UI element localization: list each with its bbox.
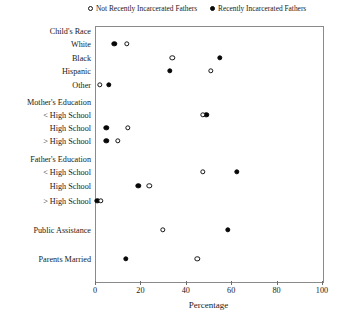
filled-circle-marker-icon <box>210 6 215 11</box>
x-axis-tick-label: 0 <box>93 286 97 296</box>
legend-entry-not-recently-incarcerated: Not Recently Incarcerated Fathers <box>88 4 197 13</box>
x-axis-tick-label: 80 <box>273 286 281 296</box>
x-axis-tick <box>140 281 141 285</box>
x-axis-tick-label: 20 <box>136 286 144 296</box>
chart-figure: Not Recently Incarcerated Fathers Recent… <box>0 0 345 326</box>
y-axis-tick-label: > High School <box>43 197 91 206</box>
data-point-open <box>194 256 199 261</box>
data-point-filled <box>234 169 239 174</box>
data-point-open <box>160 227 165 232</box>
x-axis-tick-label: 60 <box>227 286 235 296</box>
data-point-filled <box>104 125 109 130</box>
y-axis-group-label: Father's Education <box>30 154 91 163</box>
y-axis-tick-label: High School <box>50 124 91 133</box>
data-point-open <box>208 68 213 73</box>
data-point-open <box>124 41 129 46</box>
data-point-open <box>200 169 205 174</box>
data-point-filled <box>135 183 140 188</box>
y-axis-category-labels: Child's RaceWhiteBlackHispanicOtherMothe… <box>0 26 91 281</box>
x-axis-tick-label: 40 <box>182 286 190 296</box>
data-point-filled <box>167 68 172 73</box>
x-axis-tick <box>95 281 96 285</box>
data-point-filled <box>104 138 109 143</box>
y-axis-tick-label: Hispanic <box>62 67 91 76</box>
data-point-open <box>169 55 174 60</box>
data-point-filled <box>217 55 222 60</box>
open-circle-marker-icon <box>88 6 93 11</box>
y-axis-group-label: Child's Race <box>50 27 91 36</box>
data-point-filled <box>106 82 111 87</box>
y-axis-tick-label: > High School <box>43 137 91 146</box>
x-axis-tick <box>231 281 232 285</box>
legend-label-recently-incarcerated: Recently Incarcerated Fathers <box>218 4 306 13</box>
data-point-filled <box>225 227 230 232</box>
data-point-open <box>97 82 102 87</box>
data-point-open <box>115 138 120 143</box>
data-point-open <box>98 198 103 203</box>
y-axis-tick-label: < High School <box>43 168 91 177</box>
y-axis-tick-label: High School <box>50 182 91 191</box>
y-axis-tick-label: Parents Married <box>38 255 91 264</box>
y-axis-tick-label: White <box>71 39 91 48</box>
data-point-filled <box>123 256 128 261</box>
legend-entry-recently-incarcerated: Recently Incarcerated Fathers <box>210 4 306 13</box>
y-axis-tick-label: < High School <box>43 110 91 119</box>
data-point-filled <box>112 41 117 46</box>
plot-data-area <box>95 26 322 281</box>
chart-legend: Not Recently Incarcerated Fathers Recent… <box>0 4 345 18</box>
x-axis-tick-label: 100 <box>316 286 328 296</box>
y-axis-tick-label: Public Assistance <box>33 226 91 235</box>
x-axis-tick <box>322 281 323 285</box>
x-axis-tick <box>277 281 278 285</box>
data-point-open <box>147 183 152 188</box>
x-axis-tick <box>186 281 187 285</box>
legend-label-not-recently-incarcerated: Not Recently Incarcerated Fathers <box>96 4 197 13</box>
y-axis-tick-label: Other <box>72 80 91 89</box>
data-point-open <box>125 125 130 130</box>
y-axis-tick-label: Black <box>72 53 91 62</box>
y-axis-group-label: Mother's Education <box>27 98 91 107</box>
x-axis-title: Percentage <box>95 300 322 311</box>
